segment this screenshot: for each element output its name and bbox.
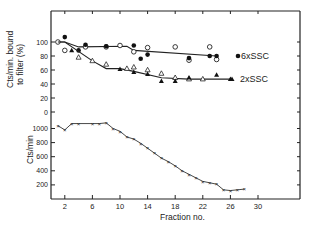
filled-circle-marker xyxy=(145,52,150,57)
bottom-y-tick-label: 200 xyxy=(36,181,48,188)
x-marker: × xyxy=(104,120,108,126)
x-marker: × xyxy=(236,187,240,193)
filled-circle-marker xyxy=(207,54,212,59)
series-label-2xssc: 2xSSC xyxy=(240,74,269,84)
series-label-6xssc: 6xSSC xyxy=(241,51,270,61)
bottom-y-tick-label: 1000 xyxy=(32,125,48,132)
open-triangle-marker xyxy=(131,65,136,70)
top-y-tick-label: 100 xyxy=(36,39,48,46)
x-marker: × xyxy=(56,123,60,129)
filled-circle-marker xyxy=(63,35,68,40)
open-circle-marker xyxy=(207,45,212,50)
x-tick-label: 30 xyxy=(254,202,262,211)
x-tick-label: 18 xyxy=(171,202,179,211)
x-marker: × xyxy=(132,136,136,142)
top-panel-series xyxy=(56,35,241,83)
x-tick-label: 6 xyxy=(90,202,94,211)
x-tick-label: 26 xyxy=(226,202,234,211)
filled-circle-marker xyxy=(83,43,88,48)
x-marker: × xyxy=(153,150,157,156)
x-marker: × xyxy=(146,145,150,151)
top-ylabel-line2: to filter (%) xyxy=(15,44,25,85)
x-marker: × xyxy=(208,180,212,186)
legend-marker-6xssc xyxy=(236,54,241,59)
open-circle-marker xyxy=(132,50,137,55)
bottom-panel-series: ××××××××××××××××××××××××××× xyxy=(56,120,246,194)
bottom-ylabel: Cts/min xyxy=(25,135,35,164)
x-marker: × xyxy=(167,159,171,165)
x-marker: × xyxy=(139,141,143,147)
x-tick-label: 14 xyxy=(143,202,151,211)
x-tick-label: 10 xyxy=(116,202,124,211)
filled-circle-marker xyxy=(138,57,143,62)
chart: ××××××××××××××××××××××××××× Cts/min. bou… xyxy=(0,0,311,227)
x-marker: × xyxy=(180,168,184,174)
x-marker: × xyxy=(77,121,81,127)
bottom-y-tick-label: 800 xyxy=(36,139,48,146)
open-triangle-marker xyxy=(90,58,95,63)
open-circle-marker xyxy=(63,48,68,53)
top-y-tick-label: 40 xyxy=(40,81,48,88)
open-triangle-marker xyxy=(104,62,109,66)
cts-series-line xyxy=(58,123,244,191)
filled-triangle-marker xyxy=(159,79,164,84)
top-y-tick-label: 80 xyxy=(40,53,48,60)
open-triangle-marker xyxy=(145,67,150,72)
x-marker: × xyxy=(63,127,67,133)
x-tick-label: 2 xyxy=(63,202,67,211)
x-tick-label: 22 xyxy=(199,202,207,211)
bottom-y-tick-label: 600 xyxy=(36,153,48,160)
x-marker: × xyxy=(125,134,129,140)
x-marker: × xyxy=(70,121,74,127)
filled-circle-marker xyxy=(214,54,219,59)
plot-frame xyxy=(51,11,300,199)
open-triangle-marker xyxy=(124,66,129,71)
x-marker: × xyxy=(111,126,115,132)
filled-circle-marker xyxy=(187,56,192,61)
open-triangle-marker xyxy=(76,55,81,60)
tick-labels: 2610141822263010080604020010008006004002… xyxy=(32,39,262,212)
x-marker: × xyxy=(215,181,219,187)
filled-triangle-marker xyxy=(187,75,192,80)
axis-ticks xyxy=(51,11,300,199)
top-y-tick-label: 0 xyxy=(44,109,48,116)
filled-circle-marker xyxy=(132,43,137,48)
top-y-tick-label: 20 xyxy=(40,95,48,102)
x-marker: × xyxy=(187,172,191,178)
top-y-tick-label: 60 xyxy=(40,67,48,74)
x-marker: × xyxy=(118,129,122,135)
x-marker: × xyxy=(242,186,246,192)
filled-triangle-marker xyxy=(214,72,219,77)
open-circle-marker xyxy=(145,45,150,50)
x-marker: × xyxy=(160,155,164,161)
x-marker: × xyxy=(98,121,102,127)
open-triangle-marker xyxy=(159,71,164,76)
open-circle-marker xyxy=(118,43,123,48)
x-marker: × xyxy=(222,187,226,193)
filled-circle-marker xyxy=(104,44,109,49)
open-circle-marker xyxy=(173,45,178,50)
x-marker: × xyxy=(194,175,198,181)
x-marker: × xyxy=(91,121,95,127)
x-marker: × xyxy=(201,179,205,185)
top-ylabel-line1: Cts/min. bound xyxy=(5,31,15,88)
bottom-y-tick-label: 400 xyxy=(36,167,48,174)
x-marker: × xyxy=(229,188,233,194)
x-axis-label: Fraction no. xyxy=(160,212,205,222)
x-marker: × xyxy=(173,163,177,169)
